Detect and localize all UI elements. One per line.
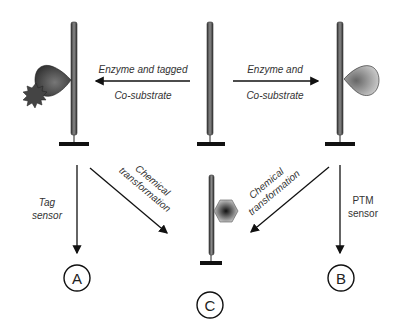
modification-drop-icon [344, 66, 379, 96]
label-enzyme: Enzyme and [247, 64, 303, 75]
label-ptm: PTM [352, 195, 373, 206]
bottom-rod [209, 175, 214, 255]
label-cosubstrate-right: Co-substrate [246, 90, 304, 101]
label-tag: Tag [39, 197, 56, 208]
right-rod [337, 22, 343, 135]
right-base [325, 142, 355, 146]
modified-substrate [325, 22, 379, 146]
tagged-substrate [23, 22, 89, 146]
node-c-label: C [205, 297, 216, 314]
center-base [197, 142, 225, 146]
center-rod [207, 22, 213, 135]
pathway-diagram: Enzyme and tagged Co-substrate Enzyme an… [0, 0, 400, 335]
unmodified-substrate [197, 22, 225, 146]
left-rod [71, 22, 77, 135]
node-b: B [328, 265, 354, 291]
label-enzyme-tagged: Enzyme and tagged [99, 64, 188, 75]
label-cosubstrate-left: Co-substrate [114, 90, 172, 101]
label-tag-sensor: sensor [32, 210, 63, 221]
bottom-base [200, 261, 222, 265]
node-b-label: B [336, 270, 346, 287]
node-a-label: A [72, 270, 82, 287]
node-c: C [197, 292, 223, 318]
label-ptm-sensor: sensor [348, 208, 379, 219]
node-a: A [64, 265, 90, 291]
hexagon-product-icon [214, 200, 238, 222]
left-base [59, 142, 89, 146]
transformed-substrate [200, 175, 238, 265]
